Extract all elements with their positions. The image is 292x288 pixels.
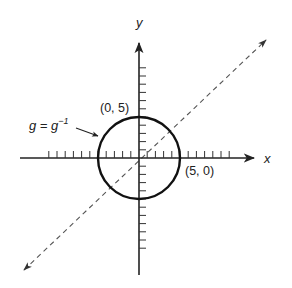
function-label-base: g = g [29,118,59,133]
function-label-superscript: −1 [58,116,68,126]
y-axis-label: y [135,15,144,30]
point-label-0-5: (0, 5) [100,101,129,115]
x-axis-label: x [263,151,271,166]
inverse-function-diagram: y x (0, 5) (5, 0) g = g−1 [0,0,292,288]
function-label: g = g−1 [29,116,69,133]
y-axis [139,43,146,275]
x-axis [20,151,254,158]
point-label-5-0: (5, 0) [185,164,214,178]
label-pointer-arrow [76,128,98,136]
